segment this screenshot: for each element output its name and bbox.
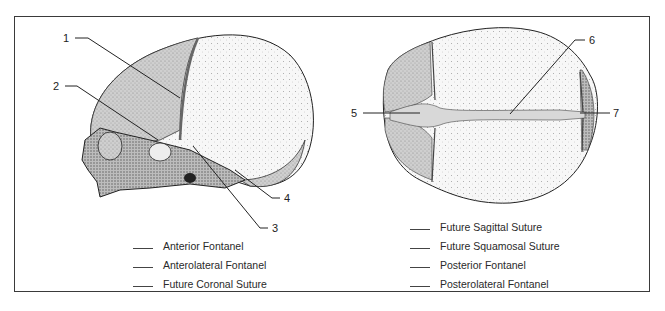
legend-right: Future Sagittal Suture Future Squamosal … bbox=[410, 217, 560, 293]
legend-label: Future Squamosal Suture bbox=[440, 240, 560, 252]
callout-4: 4 bbox=[284, 192, 290, 204]
callout-2: 2 bbox=[53, 80, 59, 92]
answer-blank[interactable] bbox=[410, 286, 430, 287]
legend-item: Posterolateral Fontanel bbox=[410, 274, 560, 293]
callout-3: 3 bbox=[272, 222, 278, 234]
legend-left: Anterior Fontanel Anterolateral Fontanel… bbox=[133, 236, 267, 293]
callout-1: 1 bbox=[63, 32, 69, 44]
skull-diagram: 1 2 3 4 5 6 7 bbox=[0, 0, 665, 311]
legend-label: Anterolateral Fontanel bbox=[163, 259, 266, 271]
superior-skull bbox=[383, 28, 597, 204]
answer-blank[interactable] bbox=[133, 286, 153, 287]
callout-6: 6 bbox=[589, 34, 595, 46]
legend-item: Posterior Fontanel bbox=[410, 255, 560, 274]
callout-5: 5 bbox=[351, 107, 357, 119]
answer-blank[interactable] bbox=[410, 248, 430, 249]
legend-item: Future Squamosal Suture bbox=[410, 236, 560, 255]
legend-item: Anterolateral Fontanel bbox=[133, 255, 267, 274]
answer-blank[interactable] bbox=[410, 229, 430, 230]
legend-label: Posterolateral Fontanel bbox=[440, 278, 549, 290]
legend-item: Future Sagittal Suture bbox=[410, 217, 560, 236]
answer-blank[interactable] bbox=[410, 267, 430, 268]
callout-7: 7 bbox=[613, 107, 619, 119]
legend-label: Anterior Fontanel bbox=[163, 240, 244, 252]
answer-blank[interactable] bbox=[133, 248, 153, 249]
lateral-skull bbox=[82, 35, 313, 197]
legend-label: Future Sagittal Suture bbox=[440, 221, 542, 233]
legend-item: Anterior Fontanel bbox=[133, 236, 267, 255]
legend-item: Future Coronal Suture bbox=[133, 274, 267, 293]
answer-blank[interactable] bbox=[133, 267, 153, 268]
legend-label: Future Coronal Suture bbox=[163, 278, 267, 290]
legend-label: Posterior Fontanel bbox=[440, 259, 526, 271]
